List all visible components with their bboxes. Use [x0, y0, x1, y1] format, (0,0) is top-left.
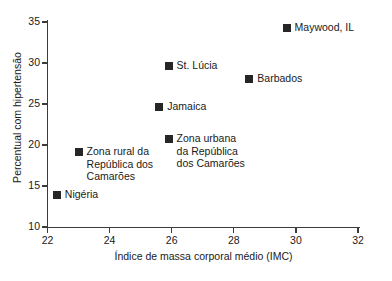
data-point	[165, 62, 173, 70]
data-points-layer: Maywood, ILSt. LúciaBarbadosJamaicaZona …	[0, 0, 392, 281]
data-point	[53, 191, 61, 199]
data-point-label: Maywood, IL	[295, 21, 355, 33]
data-point	[155, 103, 163, 111]
data-point	[165, 135, 173, 143]
data-point-label: Jamaica	[167, 100, 206, 112]
data-point-label: St. Lúcia	[177, 59, 218, 71]
data-point-label: Zona rural da República dos Camarões	[87, 145, 154, 182]
data-point	[283, 24, 291, 32]
scatter-chart: 101520253035 222426283032 Maywood, ILSt.…	[0, 0, 392, 281]
y-axis-title: Percentual com hipertensão	[12, 18, 23, 218]
data-point-label: Barbados	[257, 72, 302, 84]
x-axis-title: Índice de massa corporal médio (IMC)	[47, 251, 360, 262]
data-point-label: Zona urbana da República dos Camarões	[177, 132, 245, 169]
data-point-label: Nigéria	[65, 188, 98, 200]
data-point	[75, 148, 83, 156]
data-point	[245, 75, 253, 83]
